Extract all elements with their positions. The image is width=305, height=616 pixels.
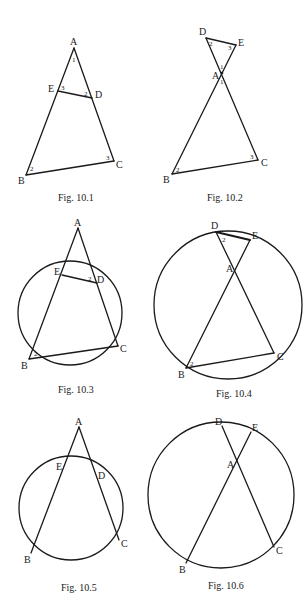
segment-ab — [31, 427, 79, 553]
segment-ac — [79, 427, 119, 540]
figure-caption: Fig. 10.1 — [58, 192, 94, 203]
vertex-d-label: D — [95, 89, 102, 100]
angle-2-label: 2 — [84, 90, 88, 98]
vertex-b-label: B — [178, 369, 185, 380]
vertex-e-label: E — [252, 422, 258, 433]
vertex-c-label: C — [120, 343, 127, 354]
vertex-b-label: B — [179, 564, 186, 575]
segment-ac — [78, 228, 118, 346]
angle-2-label: 2 — [30, 165, 34, 173]
vertex-c-label: C — [116, 159, 123, 170]
vertex-b-label: B — [163, 174, 170, 185]
angle-2-label: 2 — [34, 350, 38, 358]
vertex-a-label: A — [70, 36, 78, 47]
vertex-c-label: C — [277, 351, 284, 362]
segment-ed — [62, 275, 97, 283]
vertex-e-label: E — [56, 461, 62, 472]
vertex-c-label: C — [276, 545, 283, 556]
figure-caption: Fig. 10.3 — [58, 384, 94, 395]
vertex-c-label: C — [121, 538, 128, 549]
vertex-a-label: A — [226, 263, 234, 274]
figure-caption: Fig. 10.2 — [207, 192, 243, 203]
segment-dc — [206, 38, 258, 160]
segment-dc — [222, 426, 274, 547]
figure-10-6: D E A B C Fig. 10.6 — [148, 416, 294, 591]
figure-caption: Fig. 10.6 — [208, 580, 244, 591]
angle-2-label: 2 — [222, 236, 226, 244]
vertex-b-label: B — [21, 360, 28, 371]
segment-bc — [186, 353, 274, 368]
vertex-d-label: D — [199, 26, 206, 37]
vertex-e-label: E — [252, 230, 258, 241]
figure-10-5: A E D B C Fig. 10.5 — [19, 416, 128, 593]
vertex-c-label: C — [261, 157, 268, 168]
figure-caption: Fig. 10.4 — [216, 388, 252, 399]
angle-1-label: 1 — [72, 56, 76, 64]
vertex-d-label: D — [215, 416, 222, 427]
segment-eb — [186, 432, 251, 563]
angle-1-label: 1 — [220, 78, 224, 86]
figure-10-2: D E A B C 2 3 1 1 2 3 Fig. 10.2 — [163, 26, 268, 203]
angle-2-label: 2 — [209, 40, 213, 48]
figure-10-1: A E D B C 1 3 2 2 3 Fig. 10.1 — [18, 36, 123, 203]
vertex-b-label: B — [18, 175, 25, 186]
intersection-point — [221, 72, 224, 75]
angle-2-label: 2 — [176, 166, 180, 174]
segment-bc — [172, 160, 258, 174]
segment-bc — [26, 161, 114, 175]
vertex-e-label: E — [238, 37, 244, 48]
vertex-e-label: E — [48, 83, 54, 94]
figures-canvas: A E D B C 1 3 2 2 3 Fig. 10.1 D E A B C … — [0, 0, 305, 616]
angle-1-label: 1 — [220, 63, 224, 71]
angle-3-label: 3 — [106, 154, 110, 162]
angle-3-label: 3 — [250, 153, 254, 161]
vertex-b-label: B — [24, 554, 31, 565]
angle-2-label: 2 — [88, 275, 92, 283]
circle — [148, 422, 294, 568]
figure-10-4: D E A B C 2 2 Fig. 10.4 — [154, 220, 302, 399]
angle-2-label: 2 — [190, 360, 194, 368]
vertex-a-label: A — [212, 70, 220, 81]
vertex-d-label: D — [97, 274, 104, 285]
vertex-a-label: A — [74, 217, 82, 228]
vertex-d-label: D — [211, 220, 218, 231]
angle-3-label: 3 — [228, 44, 232, 52]
segment-eb — [172, 45, 236, 174]
segment-eb — [186, 240, 250, 368]
angle-3-label: 3 — [61, 84, 65, 92]
vertex-a-label: A — [75, 416, 83, 427]
vertex-a-label: A — [227, 459, 235, 470]
figure-caption: Fig. 10.5 — [61, 582, 97, 593]
vertex-e-label: E — [54, 266, 60, 277]
vertex-d-label: D — [98, 470, 105, 481]
segment-ab — [29, 228, 78, 359]
figure-10-3: A E D B C 2 2 Fig. 10.3 — [18, 217, 127, 395]
segment-ab — [26, 48, 74, 175]
segment-ac — [74, 48, 114, 161]
